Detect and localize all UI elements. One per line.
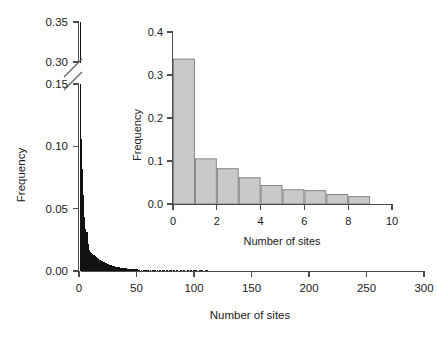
svg-text:0.0: 0.0: [148, 198, 163, 210]
figure-container: 0.000.050.100.150.300.35 050100150200250…: [0, 0, 437, 340]
inset-y-axis-title: Frequency: [131, 109, 143, 161]
svg-text:0.2: 0.2: [148, 112, 163, 124]
svg-text:0.05: 0.05: [46, 203, 68, 215]
svg-text:0.35: 0.35: [46, 16, 68, 28]
main-y-axis-title: Frequency: [15, 148, 27, 203]
main-x-axis-title: Number of sites: [210, 309, 291, 321]
svg-text:0: 0: [170, 215, 176, 227]
figure-svg: 0.000.050.100.150.300.35 050100150200250…: [0, 0, 437, 340]
svg-text:0.4: 0.4: [148, 26, 163, 38]
inset-y-tick-labels: 0.00.10.20.30.4: [148, 26, 163, 210]
svg-text:0.1: 0.1: [148, 155, 163, 167]
svg-text:0.15: 0.15: [46, 78, 68, 90]
svg-text:300: 300: [414, 282, 433, 294]
inset-plot: 0.00.10.20.30.4 0246810 Frequency Number…: [131, 26, 398, 247]
svg-text:0: 0: [76, 282, 82, 294]
svg-text:200: 200: [299, 282, 318, 294]
svg-text:10: 10: [386, 215, 398, 227]
main-x-tick-labels: 050100150200250300: [76, 282, 434, 294]
svg-text:8: 8: [345, 215, 351, 227]
svg-text:2: 2: [214, 215, 220, 227]
svg-text:150: 150: [242, 282, 261, 294]
main-histogram-bars-upper: [80, 22, 81, 63]
svg-text:6: 6: [301, 215, 307, 227]
inset-histogram-bars: [174, 59, 370, 204]
inset-x-axis-title: Number of sites: [243, 235, 321, 247]
svg-text:0.10: 0.10: [46, 140, 68, 152]
svg-text:100: 100: [184, 282, 203, 294]
main-y-tick-labels: 0.000.050.100.150.300.35: [46, 16, 68, 277]
svg-text:50: 50: [130, 282, 143, 294]
svg-text:250: 250: [357, 282, 376, 294]
svg-text:0.3: 0.3: [148, 69, 163, 81]
svg-text:0.30: 0.30: [46, 56, 68, 68]
svg-text:4: 4: [258, 215, 264, 227]
inset-x-tick-labels: 0246810: [170, 215, 398, 227]
svg-text:0.00: 0.00: [46, 265, 68, 277]
